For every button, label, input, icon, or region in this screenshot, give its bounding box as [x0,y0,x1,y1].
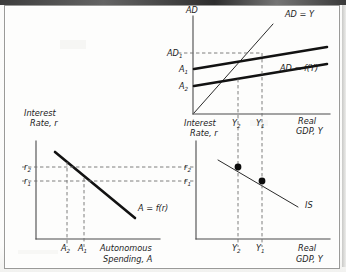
aut-xtick-a2: A2 [60,243,71,254]
is-y-axis-label-line2: Rate, r [190,128,218,138]
aut-x-axis-label-line2: Spending, A [103,254,153,264]
panel-is-curve: r2 r1 Interest Rate, r Y2 Y1 Real GDP, Y… [184,118,330,264]
is-ytick-r1: r1 [184,176,191,187]
aut-ytick-r2: r2 [24,162,31,173]
ad-y-axis-label: AD [185,5,198,15]
ad-x-axis-label-line2: GDP, Y [296,126,324,136]
is-x-axis-label-line1: Real [298,243,317,253]
equilibrium-point-2 [235,164,242,171]
is-x-axis-label-line2: GDP, Y [296,254,324,264]
figure-page: AD1 A1 A2 AD AD = Y AD = f(Y) Y2 Y1 Real… [0,0,346,272]
is-ytick-r2: r2 [184,162,191,173]
aut-x-axis-label-line1: Autonomous [99,243,152,253]
ad-function-label: AD = f(Y) [279,63,318,73]
forty-five-degree-line-label: AD = Y [284,9,315,19]
aut-xtick-a1: A1 [77,243,87,254]
autonomous-spending-curve [55,152,135,218]
is-xtick-y1: Y1 [256,243,265,254]
is-xtick-y2: Y2 [232,243,241,254]
ad-ytick-a1: A1 [178,64,188,75]
ad-xtick-y1: Y1 [256,118,265,129]
ad-xtick-y2: Y2 [232,118,241,129]
panel-autonomous-spending: r2 r1 Interest Rate, r A2 A1 Autonomous … [22,108,196,264]
aut-y-axis-label-line2: Rate, r [30,118,58,128]
aut-y-axis-label-line1: Interest [24,108,57,118]
autonomous-spending-curve-label: A = f(r) [137,203,168,213]
equilibrium-point-1 [259,178,266,185]
diagram-svg: AD1 A1 A2 AD AD = Y AD = f(Y) Y2 Y1 Real… [0,0,346,272]
aut-ytick-r1: r1 [24,176,31,187]
is-curve-label: IS [305,200,313,210]
ad-x-axis-label-line1: Real [298,116,317,126]
ad-ytick-a2: A2 [178,81,189,92]
is-curve [218,160,298,207]
ad-ytick-ad1: AD1 [166,48,182,59]
forty-five-degree-line [194,24,273,113]
is-y-axis-label-line1: Interest [184,118,217,128]
